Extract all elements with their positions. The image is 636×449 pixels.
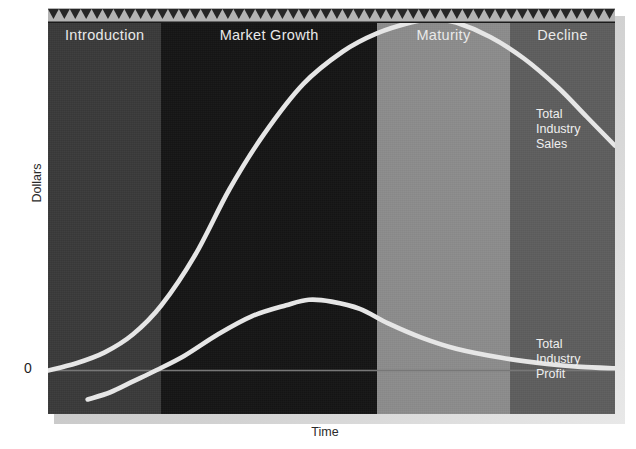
- plot-area: Introduction Market Growth Maturity Decl…: [48, 8, 615, 414]
- chart-curves: [48, 8, 615, 414]
- y-axis-title: Dollars: [30, 138, 44, 228]
- stage-label-decline: Decline: [473, 27, 636, 43]
- annotation-total-industry-profit: Total Industry Profit: [536, 337, 580, 382]
- annotation-line: Profit: [536, 367, 580, 382]
- product-life-cycle-figure: Introduction Market Growth Maturity Decl…: [0, 0, 636, 449]
- stage-label-introduction: Introduction: [15, 27, 195, 43]
- sawtooth-border: [48, 8, 615, 23]
- annotation-line: Industry: [536, 352, 580, 367]
- annotation-line: Total: [536, 337, 580, 352]
- x-axis-title: Time: [265, 425, 385, 439]
- annotation-total-industry-sales: Total Industry Sales: [536, 107, 580, 152]
- annotation-line: Sales: [536, 137, 580, 152]
- annotation-line: Total: [536, 107, 580, 122]
- stage-label-market-growth: Market Growth: [179, 27, 359, 43]
- curve-total-industry-sales: [48, 19, 615, 371]
- y-axis-zero-label: 0: [24, 360, 32, 376]
- annotation-line: Industry: [536, 122, 580, 137]
